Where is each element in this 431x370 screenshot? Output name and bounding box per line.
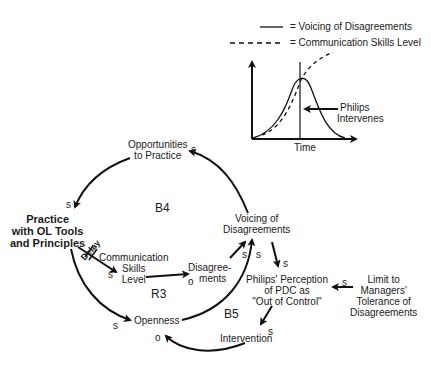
legend-solid-label: = Voicing of Disagreements [290, 21, 412, 32]
node-philips-perception: Philips' Perception of PDC as "Out of Co… [246, 274, 328, 307]
arrow-perception-to-intervention [261, 306, 272, 324]
polarity-perception-from-voicing: s [283, 259, 288, 269]
node-opportunities-to-practice: Opportunities to Practice [128, 139, 187, 161]
node-intervention: Intervention [220, 333, 272, 344]
philips-intervenes-label: Philips Intervenes [340, 102, 384, 124]
node-disagreements: Disagree- ments [188, 262, 231, 284]
arrow-voicing-to-opportunities [190, 151, 248, 213]
polarity-disagreements: o [188, 277, 194, 287]
loop-r3-label: R3 [151, 288, 166, 300]
arrow-opportunities-to-practice [75, 158, 130, 207]
node-voicing-of-disagreements: Voicing of Disagreements [223, 213, 290, 235]
polarity-voicing-from-disagree: s [242, 250, 247, 260]
polarity-openness-from-intervention: o [155, 333, 161, 343]
loop-b5-label: B5 [224, 308, 239, 320]
legend-dashed-label: = Communication Skills Level [290, 37, 421, 48]
polarity-voicing-from-openness: s [256, 250, 261, 260]
polarity-openness-from-practice: s [113, 321, 118, 331]
arrow-voicing-to-perception [272, 242, 278, 266]
polarity-practice: s [66, 200, 71, 210]
comm-skills-curve [262, 52, 333, 135]
polarity-perception-from-limit: s [342, 278, 347, 288]
node-openness: Openness [134, 315, 180, 326]
time-axis-label: Time [294, 142, 316, 153]
node-practice-ol-tools: Practice with OL Tools and Principles [10, 213, 85, 249]
polarity-opportunities: s [191, 145, 196, 155]
inset-chart [252, 52, 356, 139]
node-limit-to-tolerance: Limit to Managers' Tolerance of Disagree… [350, 274, 417, 318]
polarity-intervention: s [268, 327, 273, 337]
polarity-comm-skills: s [108, 270, 113, 280]
loop-b4-label: B4 [155, 202, 170, 214]
